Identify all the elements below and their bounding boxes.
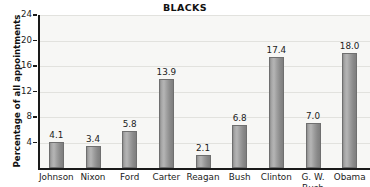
bar-value-label: 6.8 bbox=[220, 113, 260, 123]
y-tick-label: 20 bbox=[12, 36, 32, 45]
y-tick-mark bbox=[33, 91, 37, 93]
bar-value-label: 18.0 bbox=[330, 41, 370, 51]
y-tick-label: 16 bbox=[12, 61, 32, 70]
bar-value-label: 5.8 bbox=[110, 119, 150, 129]
bar bbox=[269, 57, 284, 168]
y-tick-mark bbox=[33, 40, 37, 42]
bar-value-label: 3.4 bbox=[73, 134, 113, 144]
y-tick-label: 24 bbox=[12, 10, 32, 19]
y-tick-mark bbox=[33, 14, 37, 16]
bar-value-label: 13.9 bbox=[146, 67, 186, 77]
bar-value-label: 7.0 bbox=[293, 111, 333, 121]
x-tick-label: Obama bbox=[326, 172, 370, 183]
bar bbox=[342, 53, 357, 168]
bar-value-label: 2.1 bbox=[183, 143, 223, 153]
bar bbox=[306, 123, 321, 168]
y-tick-mark bbox=[33, 116, 37, 118]
bar bbox=[196, 155, 211, 168]
y-tick-mark bbox=[33, 142, 37, 144]
bar bbox=[122, 131, 137, 168]
bar-value-label: 4.1 bbox=[36, 130, 76, 140]
bar bbox=[86, 146, 101, 168]
y-tick-mark bbox=[33, 65, 37, 67]
bar bbox=[49, 142, 64, 168]
bar-value-label: 17.4 bbox=[256, 45, 296, 55]
bar bbox=[232, 125, 247, 168]
y-tick-label: 8 bbox=[12, 112, 32, 121]
bar bbox=[159, 79, 174, 168]
y-tick-label: 4 bbox=[12, 138, 32, 147]
bar-chart: BLACKS Percentage of all appointments 48… bbox=[0, 0, 370, 187]
y-tick-label: 12 bbox=[12, 87, 32, 96]
